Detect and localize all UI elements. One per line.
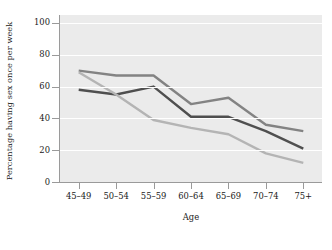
series-lines <box>60 15 322 182</box>
y-tick-label: 100 <box>18 18 50 27</box>
x-tick-mark <box>116 183 117 189</box>
y-tick-mark <box>52 23 59 24</box>
gridline <box>60 118 322 119</box>
x-axis-tick-marks <box>60 183 322 190</box>
y-tick-mark <box>52 118 59 119</box>
x-axis-title: Age <box>60 212 322 222</box>
y-axis-title: Percentage having sex once per week <box>2 6 16 196</box>
x-tick-mark <box>79 183 80 189</box>
x-tick-label: 75+ <box>278 191 328 202</box>
y-tick-mark <box>52 87 59 88</box>
y-tick-label: 60 <box>18 82 50 91</box>
gridline <box>60 150 322 151</box>
x-tick-mark <box>191 183 192 189</box>
y-tick-mark <box>52 182 59 183</box>
gridline <box>60 55 322 56</box>
gridline <box>60 87 322 88</box>
y-tick-mark <box>52 150 59 151</box>
gridline <box>60 23 322 24</box>
x-tick-mark <box>266 183 267 189</box>
y-tick-label: 40 <box>18 114 50 123</box>
y-tick-mark <box>52 55 59 56</box>
y-tick-label: 80 <box>18 50 50 59</box>
x-tick-mark <box>303 183 304 189</box>
y-tick-label: 0 <box>18 178 50 187</box>
x-axis-tick-labels: 45–4950–5455–5960–6465–6970–7475+ <box>60 191 322 203</box>
x-tick-mark <box>228 183 229 189</box>
plot-area <box>60 15 322 182</box>
y-tick-label: 20 <box>18 146 50 155</box>
y-axis-tick-labels: 020406080100 <box>18 0 50 250</box>
chart-figure: Percentage having sex once per week 0204… <box>0 0 332 250</box>
x-tick-mark <box>154 183 155 189</box>
line-series-medium <box>79 71 304 131</box>
